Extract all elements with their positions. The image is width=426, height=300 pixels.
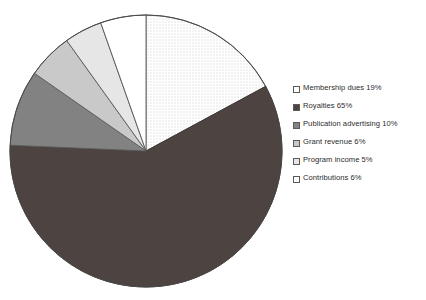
legend-label-membership-dues: Membership dues 19% bbox=[303, 84, 382, 92]
legend-item-program-income[interactable]: Program income 5% bbox=[293, 156, 426, 165]
legend-item-contributions[interactable]: Contributions 6% bbox=[293, 174, 426, 183]
legend-swatch-publication-advertising-icon bbox=[293, 122, 300, 129]
pie-chart-figure: Membership dues 19% Royalties 65% Public… bbox=[0, 0, 426, 300]
legend-swatch-grant-revenue-icon bbox=[293, 140, 300, 147]
legend-swatch-royalties-icon bbox=[293, 104, 300, 111]
legend-swatch-program-income-icon bbox=[293, 158, 300, 165]
legend-label-grant-revenue: Grant revenue 6% bbox=[303, 138, 365, 146]
pie-slice-group bbox=[10, 15, 282, 287]
legend-swatch-contributions-icon bbox=[293, 176, 300, 183]
legend-item-royalties[interactable]: Royalties 65% bbox=[293, 102, 426, 111]
legend-item-publication-advertising[interactable]: Publication advertising 10% bbox=[293, 120, 426, 129]
legend-swatch-membership-dues-icon bbox=[293, 86, 300, 93]
pie-chart-svg bbox=[0, 0, 292, 300]
legend-label-contributions: Contributions 6% bbox=[303, 174, 362, 182]
legend-label-royalties: Royalties 65% bbox=[303, 102, 352, 110]
pie-chart-plot-area bbox=[0, 0, 292, 300]
legend-item-grant-revenue[interactable]: Grant revenue 6% bbox=[293, 138, 426, 147]
legend-label-publication-advertising: Publication advertising 10% bbox=[303, 120, 398, 128]
legend-label-program-income: Program income 5% bbox=[303, 156, 373, 164]
legend-item-membership-dues[interactable]: Membership dues 19% bbox=[293, 84, 426, 93]
chart-legend: Membership dues 19% Royalties 65% Public… bbox=[293, 84, 426, 192]
